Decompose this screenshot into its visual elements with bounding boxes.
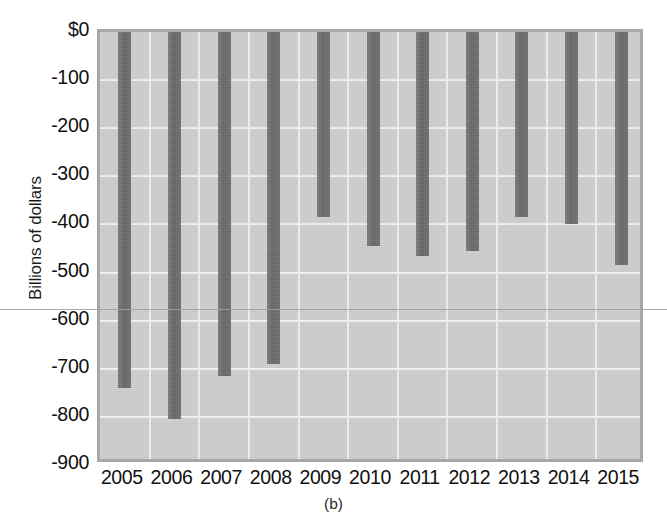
x-tick-label: 2014 xyxy=(548,466,590,489)
figure-panel: Billions of dollars $0-100-200-300-400-5… xyxy=(0,0,667,530)
x-tick-label: 2009 xyxy=(299,466,341,489)
x-tick-label: 2011 xyxy=(399,466,439,489)
x-tick-label: 2013 xyxy=(498,466,540,489)
x-axis-tick-labels: 2005200620072008200920102011201220132014… xyxy=(0,0,667,530)
x-tick-label: 2010 xyxy=(349,466,391,489)
x-tick-label: 2007 xyxy=(200,466,242,489)
x-tick-label: 2008 xyxy=(250,466,292,489)
x-tick-label: 2006 xyxy=(151,466,193,489)
x-tick-label: 2005 xyxy=(101,466,143,489)
x-tick-label: 2012 xyxy=(448,466,490,489)
x-tick-label: 2015 xyxy=(597,466,639,489)
figure-caption: (b) xyxy=(0,495,667,513)
